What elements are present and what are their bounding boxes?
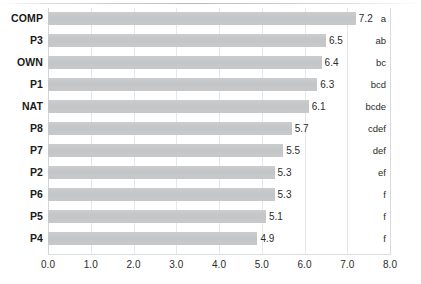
group-label-p2: ef — [330, 167, 386, 179]
category-label-own: OWN — [0, 56, 43, 68]
x-tick-8.0: 8.0 — [370, 258, 410, 272]
x-tick-0.0: 0.0 — [28, 258, 68, 272]
category-label-p6: P6 — [0, 188, 43, 200]
group-label-nat: bcde — [330, 101, 386, 113]
category-label-p4: P4 — [0, 232, 43, 244]
bar-row: P36.5ab — [0, 30, 421, 52]
bar-p5 — [48, 210, 266, 223]
group-label-p6: f — [330, 189, 386, 201]
value-label-p7: 5.5 — [286, 145, 300, 157]
x-tick-2.0: 2.0 — [114, 258, 154, 272]
value-label-p6: 5.3 — [278, 189, 292, 201]
bar-comp — [48, 12, 356, 25]
bar-row: P25.3ef — [0, 162, 421, 184]
x-tick-6.0: 6.0 — [285, 258, 325, 272]
bar-row: OWN6.4bc — [0, 52, 421, 74]
value-label-p2: 5.3 — [278, 167, 292, 179]
group-label-p7: def — [330, 145, 386, 157]
bar-p8 — [48, 122, 292, 135]
bar-row: COMP7.2a — [0, 8, 421, 30]
bar-nat — [48, 100, 309, 113]
bar-rows: COMP7.2aP36.5abOWN6.4bcP16.3bcdNAT6.1bcd… — [0, 0, 421, 254]
bar-p1 — [48, 78, 317, 91]
bar-p2 — [48, 166, 275, 179]
value-label-nat: 6.1 — [312, 101, 326, 113]
bar-p7 — [48, 144, 283, 157]
bar-row: P65.3f — [0, 184, 421, 206]
bar-row: P75.5def — [0, 140, 421, 162]
bar-p6 — [48, 188, 275, 201]
category-label-p8: P8 — [0, 122, 43, 134]
x-tick-4.0: 4.0 — [199, 258, 239, 272]
category-label-p1: P1 — [0, 78, 43, 90]
x-tick-3.0: 3.0 — [156, 258, 196, 272]
bar-row: NAT6.1bcde — [0, 96, 421, 118]
bar-row: P85.7cdef — [0, 118, 421, 140]
bar-row: P55.1f — [0, 206, 421, 228]
x-tick-5.0: 5.0 — [242, 258, 282, 272]
x-axis-tick-labels: 0.01.02.03.04.05.06.07.08.0 — [0, 258, 421, 274]
value-label-p5: 5.1 — [269, 211, 283, 223]
bar-chart: COMP7.2aP36.5abOWN6.4bcP16.3bcdNAT6.1bcd… — [0, 0, 421, 284]
x-tick-7.0: 7.0 — [327, 258, 367, 272]
value-label-p4: 4.9 — [260, 233, 274, 245]
category-label-nat: NAT — [0, 100, 43, 112]
category-label-p3: P3 — [0, 34, 43, 46]
x-tick-1.0: 1.0 — [71, 258, 111, 272]
category-label-p7: P7 — [0, 144, 43, 156]
value-label-p8: 5.7 — [295, 123, 309, 135]
bar-row: P16.3bcd — [0, 74, 421, 96]
x-axis-line — [48, 254, 391, 255]
group-label-own: bc — [330, 57, 386, 69]
group-label-p8: cdef — [330, 123, 386, 135]
group-label-p3: ab — [330, 35, 386, 47]
group-label-p5: f — [330, 211, 386, 223]
category-label-comp: COMP — [0, 12, 43, 24]
group-label-p4: f — [330, 233, 386, 245]
bar-p3 — [48, 34, 326, 47]
bar-own — [48, 56, 322, 69]
category-label-p5: P5 — [0, 210, 43, 222]
bar-row: P44.9f — [0, 228, 421, 250]
category-label-p2: P2 — [0, 166, 43, 178]
group-label-p1: bcd — [330, 79, 386, 91]
bar-p4 — [48, 232, 257, 245]
group-label-comp: a — [330, 13, 386, 25]
